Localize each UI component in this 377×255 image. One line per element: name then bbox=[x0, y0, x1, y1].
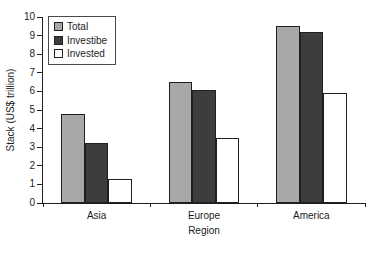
y-axis-tick bbox=[37, 203, 42, 204]
x-axis-title: Region bbox=[188, 226, 220, 236]
legend-label: Total bbox=[67, 21, 88, 33]
y-axis-tick-label: 4 bbox=[29, 124, 35, 134]
y-axis-tick-label: 2 bbox=[29, 161, 35, 171]
y-axis-tick-label: 3 bbox=[29, 142, 35, 152]
y-axis-tick bbox=[37, 128, 42, 129]
bar-total-asia bbox=[61, 114, 85, 203]
y-axis-tick-label: 10 bbox=[24, 12, 35, 22]
bar-invested-asia bbox=[108, 179, 132, 203]
y-axis-tick bbox=[37, 91, 42, 92]
x-axis-tick bbox=[257, 203, 258, 207]
x-category-label: Europe bbox=[188, 211, 220, 221]
bar-invested-europe bbox=[216, 138, 240, 203]
y-axis-tick-label: 1 bbox=[29, 179, 35, 189]
legend-swatch-investibe bbox=[54, 36, 63, 45]
y-axis-tick-label: 5 bbox=[29, 105, 35, 115]
bar-total-europe bbox=[169, 82, 193, 203]
bar-invested-america bbox=[323, 93, 347, 203]
x-axis-tick bbox=[150, 203, 151, 207]
legend-swatch-invested bbox=[54, 49, 63, 58]
legend: TotalInvestibeInvested bbox=[48, 16, 116, 65]
bar-investibe-america bbox=[300, 32, 324, 203]
x-category-label: America bbox=[293, 211, 330, 221]
bar-chart-figure: Stack (US$ trillion) Region 012345678910… bbox=[0, 0, 377, 255]
bar-total-america bbox=[276, 26, 300, 203]
y-axis-tick-label: 0 bbox=[29, 198, 35, 208]
y-axis-tick-label: 6 bbox=[29, 86, 35, 96]
y-axis-tick bbox=[37, 147, 42, 148]
bar-investibe-asia bbox=[85, 143, 109, 203]
y-axis-title: Stack (US$ trillion) bbox=[6, 69, 16, 152]
y-axis-tick bbox=[37, 110, 42, 111]
y-axis-tick-label: 7 bbox=[29, 68, 35, 78]
y-axis-tick bbox=[37, 17, 42, 18]
y-axis-tick bbox=[37, 54, 42, 55]
y-axis-tick bbox=[37, 184, 42, 185]
x-axis-tick bbox=[43, 203, 44, 207]
bar-investibe-europe bbox=[192, 90, 216, 203]
x-axis-tick bbox=[365, 203, 366, 207]
y-axis-tick bbox=[37, 165, 42, 166]
legend-swatch-total bbox=[54, 22, 63, 31]
y-axis-tick-label: 9 bbox=[29, 31, 35, 41]
x-category-label: Asia bbox=[87, 211, 106, 221]
legend-item: Invested bbox=[54, 48, 107, 60]
y-axis-tick bbox=[37, 72, 42, 73]
legend-label: Investibe bbox=[67, 35, 107, 47]
legend-item: Investibe bbox=[54, 35, 107, 47]
legend-item: Total bbox=[54, 21, 107, 33]
y-axis-tick-label: 8 bbox=[29, 49, 35, 59]
y-axis-tick bbox=[37, 35, 42, 36]
legend-label: Invested bbox=[67, 48, 105, 60]
